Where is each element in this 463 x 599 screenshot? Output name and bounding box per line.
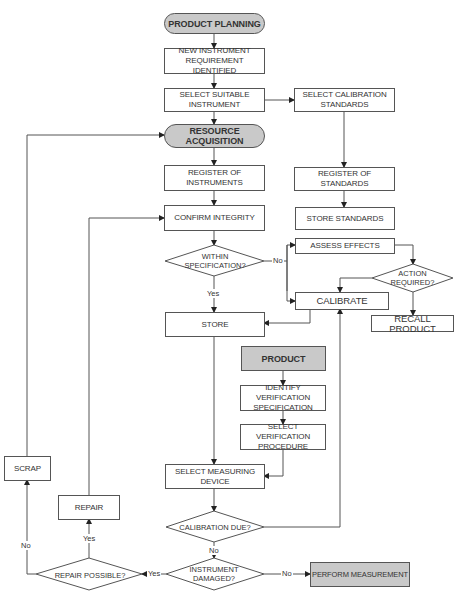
node-label: IDENTIFY VERIFICATION SPECIFICATION [241, 383, 325, 413]
node-label: SELECT VERIFICATION PROCEDURE [241, 422, 325, 452]
select-verification-procedure-node: SELECT VERIFICATION PROCEDURE [240, 424, 326, 450]
register-of-instruments-node: REGISTER OF INSTRUMENTS [164, 165, 265, 191]
confirm-integrity-node: CONFIRM INTEGRITY [164, 205, 265, 231]
node-label: SELECT MEASURING DEVICE [166, 467, 264, 487]
perform-measurement-node: PERFORM MEASUREMENT [310, 562, 410, 587]
node-label: REPAIR [75, 503, 104, 513]
node-label: REGISTER OF STANDARDS [295, 169, 394, 189]
damaged-yes-label: Yes [147, 569, 161, 578]
calibrate-node: CALIBRATE [295, 292, 389, 310]
select-measuring-device-node: SELECT MEASURING DEVICE [165, 464, 265, 489]
assess-effects-node: ASSESS EFFECTS [295, 238, 395, 254]
node-label: STORE STANDARDS [307, 214, 384, 224]
node-label: SCRAP [14, 464, 41, 474]
repair-possible-yes-label: Yes [82, 534, 96, 543]
select-calibration-standards-node: SELECT CALIBRATION STANDARDS [294, 88, 395, 112]
action-required-label: ACTION REQUIRED? [385, 268, 440, 288]
store-node: STORE [165, 312, 265, 337]
product-planning-node: PRODUCT PLANNING [164, 13, 265, 34]
select-suitable-instrument-node: SELECT SUITABLE INSTRUMENT [164, 88, 265, 112]
node-label: ASSESS EFFECTS [310, 241, 379, 251]
node-label: REGISTER OF INSTRUMENTS [165, 168, 264, 188]
recall-product-node: RECALL PRODUCT [371, 315, 454, 332]
node-label: PRODUCT PLANNING [168, 19, 260, 29]
repair-possible-no-label: No [20, 541, 32, 550]
within-spec-no-label: No [272, 256, 284, 265]
repair-node: REPAIR [58, 495, 120, 520]
calibration-due-no-label: No [208, 546, 220, 555]
node-label: PRODUCT [262, 354, 306, 364]
node-label: SELECT CALIBRATION STANDARDS [295, 90, 394, 110]
store-standards-node: STORE STANDARDS [295, 207, 395, 230]
within-spec-yes-label: Yes [206, 289, 220, 298]
calibration-due-label: CALIBRATION DUE? [172, 521, 258, 533]
calibration-flowchart: PRODUCT PLANNING NEW INSTRUMENT REQUIREM… [0, 0, 463, 599]
register-of-standards-node: REGISTER OF STANDARDS [294, 167, 395, 191]
node-label: RECALL PRODUCT [372, 314, 453, 334]
node-label: CONFIRM INTEGRITY [174, 213, 255, 223]
node-label: CALIBRATE [316, 296, 367, 306]
node-label: PERFORM MEASUREMENT [312, 570, 408, 580]
within-specification-label: WITHIN SPECIFICATION? [180, 250, 250, 272]
node-label: NEW INSTRUMENT REQUIREMENT IDENTIFIED [165, 46, 264, 76]
identify-verification-specification-node: IDENTIFY VERIFICATION SPECIFICATION [240, 385, 326, 411]
product-node: PRODUCT [241, 346, 326, 371]
instrument-damaged-label: INSTRUMENT DAMAGED? [184, 563, 244, 585]
node-label: SELECT SUITABLE INSTRUMENT [165, 90, 264, 110]
node-label: STORE [202, 320, 229, 330]
repair-possible-label: REPAIR POSSIBLE? [48, 569, 132, 581]
resource-acquisition-node: RESOURCE ACQUISITION [164, 124, 265, 148]
node-label: RESOURCE ACQUISITION [165, 126, 264, 146]
new-instrument-requirement-node: NEW INSTRUMENT REQUIREMENT IDENTIFIED [164, 48, 265, 74]
damaged-no-label: No [281, 569, 293, 578]
scrap-node: SCRAP [4, 456, 51, 481]
